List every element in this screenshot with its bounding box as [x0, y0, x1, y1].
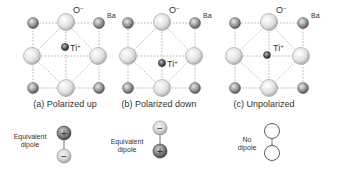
neutral-circle-icon: [265, 146, 280, 161]
ba-label: Ba: [311, 12, 320, 19]
o-atom: [58, 80, 75, 97]
caption-c: (c) Unpolarized: [233, 99, 294, 109]
o-atom: [261, 80, 278, 97]
o-label: O: [73, 5, 80, 15]
panel-c-unpolarized: Ti+ O− Ba (c) Unpolarized No dipole: [226, 5, 320, 161]
ti-charge: +: [280, 43, 284, 49]
ba-atom: [123, 83, 134, 94]
ba-atom: [94, 83, 105, 94]
dipole-c: No dipole: [238, 124, 280, 161]
ti-atom: [61, 43, 68, 50]
o-atom: [293, 48, 310, 65]
o-atom: [90, 48, 107, 65]
cell-lines: [32, 22, 99, 88]
caption-a: (a) Polarized up: [33, 99, 97, 109]
ti-label: Ti: [70, 43, 77, 53]
o-atom: [154, 80, 171, 97]
neutral-circle-icon: [265, 124, 280, 139]
o-atom: [58, 14, 75, 31]
svg-text:+: +: [157, 146, 163, 157]
ba-atom: [298, 83, 309, 94]
ti-charge: +: [174, 59, 178, 65]
o-charge: −: [176, 5, 180, 11]
ba-atom: [94, 18, 105, 29]
ti-atom: [264, 52, 271, 59]
ti-atom: [158, 59, 165, 66]
svg-text:dipole: dipole: [118, 146, 137, 154]
o-label: O: [169, 5, 176, 15]
ti-charge: +: [77, 43, 81, 49]
o-atom: [24, 48, 41, 65]
ba-atom: [190, 18, 201, 29]
svg-text:O−: O−: [169, 5, 180, 15]
o-label: O: [276, 5, 283, 15]
panel-b-polarized-down: Ti+ O− Ba (b) Polarized down Equivalent …: [111, 5, 212, 158]
o-atom: [186, 48, 203, 65]
svg-text:−: −: [157, 123, 163, 134]
ba-atom: [298, 18, 309, 29]
dipole-b: Equivalent dipole − +: [111, 121, 167, 158]
svg-text:Ti+: Ti+: [273, 43, 284, 53]
ba-atom: [230, 18, 241, 29]
svg-text:Ti+: Ti+: [70, 43, 81, 53]
svg-text:Equivalent: Equivalent: [111, 138, 144, 146]
panel-a-polarized-up: Ti+ O− Ba (a) Polarized up Equivalent di…: [14, 5, 116, 163]
ba-atom: [123, 18, 134, 29]
svg-text:dipole: dipole: [21, 141, 40, 149]
ba-label: Ba: [107, 12, 116, 19]
o-atom: [261, 14, 278, 31]
ti-label: Ti: [167, 59, 174, 69]
svg-text:dipole: dipole: [238, 144, 257, 152]
cell-lines: [128, 22, 195, 88]
ba-atom: [190, 83, 201, 94]
svg-text:−: −: [61, 151, 67, 162]
o-atom: [226, 48, 243, 65]
ba-atom: [28, 18, 39, 29]
ba-atom: [28, 83, 39, 94]
o-atom: [154, 14, 171, 31]
dipole-a: Equivalent dipole + −: [14, 126, 71, 163]
svg-text:Ti+: Ti+: [167, 59, 178, 69]
svg-text:Equivalent: Equivalent: [14, 133, 47, 141]
svg-text:No: No: [243, 136, 252, 143]
o-atom: [120, 48, 137, 65]
o-charge: −: [80, 5, 84, 11]
caption-b: (b) Polarized down: [121, 99, 196, 109]
svg-text:O−: O−: [276, 5, 287, 15]
svg-text:+: +: [61, 128, 67, 139]
ti-label: Ti: [273, 43, 280, 53]
svg-text:O−: O−: [73, 5, 84, 15]
perovskite-diagram: Ti+ O− Ba (a) Polarized up Equivalent di…: [0, 0, 338, 179]
o-charge: −: [283, 5, 287, 11]
ba-atom: [230, 83, 241, 94]
ba-label: Ba: [203, 12, 212, 19]
